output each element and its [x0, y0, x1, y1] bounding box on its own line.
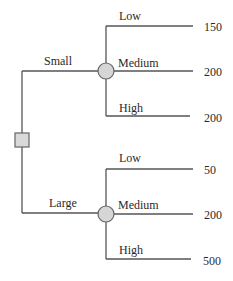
- outcome-label-large-high: High: [119, 243, 143, 257]
- decision-node-square: [15, 133, 29, 147]
- payoff-small-high: 200: [204, 111, 222, 125]
- decision-tree-diagram: Small Large Low Medium High 150 200 200 …: [0, 0, 233, 281]
- branch-label-small: Small: [44, 54, 73, 68]
- payoff-small-medium: 200: [204, 65, 222, 79]
- payoff-large-medium: 200: [204, 208, 222, 222]
- branch-label-large: Large: [49, 196, 77, 210]
- chance-node-small: [98, 63, 114, 79]
- outcome-label-small-medium: Medium: [118, 56, 159, 70]
- chance-node-large: [98, 206, 114, 222]
- payoff-large-low: 50: [204, 163, 216, 177]
- outcome-label-small-high: High: [119, 101, 143, 115]
- outcome-label-large-medium: Medium: [118, 198, 159, 212]
- payoff-small-low: 150: [204, 20, 222, 34]
- outcome-label-large-low: Low: [119, 151, 141, 165]
- outcome-label-small-low: Low: [119, 9, 141, 23]
- payoff-large-high: 500: [203, 254, 221, 268]
